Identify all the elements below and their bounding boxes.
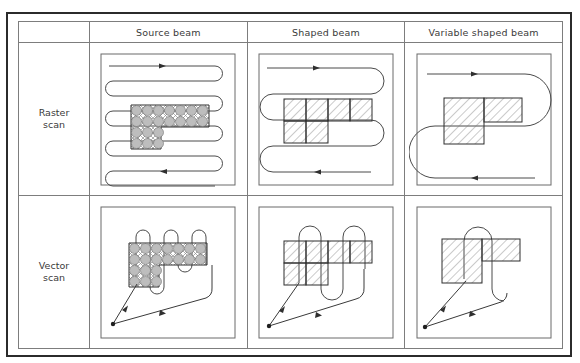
cell-vector-variable-shaped-beam: vector-variable-shaped-beam	[405, 196, 563, 349]
cell-id-vector-variable: vector-variable-shaped-beam	[484, 344, 485, 345]
row-header-raster-scan: Raster scan	[19, 43, 90, 196]
cell-id-vector-shaped: vector-shaped-beam	[326, 344, 327, 345]
deflection-vectors	[425, 281, 507, 327]
cell-vector-shaped-beam: vector-shaped-beam	[247, 196, 405, 349]
cell-vector-source-beam: vector-source-beam	[90, 196, 248, 349]
row-raster-scan: Raster scan	[19, 43, 563, 196]
scan-direction-arrow-top	[471, 71, 478, 76]
pattern-shape-flashes	[284, 99, 372, 143]
cell-raster-source-beam: raster-source-beam	[90, 43, 248, 196]
cell-raster-variable-shaped-beam: raster-variable-shaped-beam	[405, 43, 563, 196]
scan-direction-arrow-bottom	[160, 169, 167, 174]
cell-id-raster-source: raster-source-beam	[168, 191, 169, 192]
column-header-shaped-beam: Shaped beam	[247, 22, 405, 43]
pattern-shape-flashes	[442, 239, 520, 283]
cell-id-raster-variable: raster-variable-shaped-beam	[484, 191, 485, 192]
column-header-variable-shaped-beam: Variable shaped beam	[405, 22, 563, 43]
beam-origin-dot	[422, 324, 426, 328]
deflection-arrow-outbound	[315, 312, 322, 318]
scan-direction-arrow-top	[159, 63, 166, 68]
row-header-vector-scan: Vector scan	[19, 196, 90, 349]
pattern-shape-flashes	[284, 241, 372, 285]
scan-direction-arrow-top	[313, 65, 320, 70]
row-header-raster-line2: scan	[19, 119, 89, 131]
header-row: Source beam Shaped beam Variable shaped …	[19, 22, 563, 43]
row-vector-scan: Vector scan	[19, 196, 563, 349]
pattern-shape-flashes	[444, 98, 522, 144]
matrix-corner-cell	[19, 22, 90, 43]
comparison-matrix: Source beam Shaped beam Variable shaped …	[18, 21, 563, 348]
cell-id-raster-shaped: raster-shaped-beam	[326, 191, 327, 192]
figure-page: Source beam Shaped beam Variable shaped …	[0, 0, 580, 363]
pattern-shape-spots	[131, 105, 209, 149]
cell-id-vector-source: vector-source-beam	[168, 344, 169, 345]
row-header-vector-line2: scan	[19, 272, 89, 284]
row-header-vector-line1: Vector	[19, 260, 89, 272]
column-header-source-beam: Source beam	[90, 22, 248, 43]
scan-direction-arrow-bottom	[314, 169, 321, 174]
cell-raster-shaped-beam: raster-shaped-beam	[247, 43, 405, 196]
row-header-raster-line1: Raster	[19, 107, 89, 119]
pattern-shape-spots	[129, 243, 207, 287]
beam-origin-dot	[111, 321, 115, 325]
deflection-vectors	[113, 265, 212, 324]
beam-origin-dot	[267, 323, 271, 327]
scan-direction-arrow-bottom	[471, 175, 478, 180]
deflection-arrow-outbound	[159, 310, 166, 316]
